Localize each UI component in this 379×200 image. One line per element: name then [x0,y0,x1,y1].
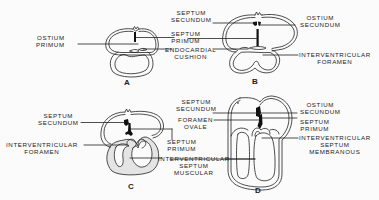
label-line: SEPTUM [158,162,230,169]
label-interventricular-foramen-c: INTERVENTRICULAR FORAMEN [6,141,78,155]
label-ostium-primum-a: OSTIUM PRIMUM [36,34,65,48]
label-endocardial-cushion-a: ENDOCARDIAL CUSHION [165,46,216,60]
heart-c [101,109,164,175]
label-line: OSTIUM [300,14,341,21]
panel-letter-d: D [255,186,261,195]
label-line: CUSHION [165,53,216,60]
panel-letter-b: B [252,77,258,86]
label-line: MUSCULAR [158,169,230,176]
label-line: SECUNDUM [176,105,217,112]
label-line: INTERVENTRICULAR [299,134,371,141]
label-septum-secundum-d: SEPTUM SECUNDUM [176,98,217,112]
label-line: OVALE [178,123,213,130]
label-line: OSTIUM [300,101,341,108]
heart-a [106,27,159,78]
label-line: MEMBRANOUS [299,148,371,155]
label-line: PRIMUM [171,37,200,44]
label-interventricular-foramen-b: INTERVENTRICULAR FORAMEN [299,51,371,65]
label-line: ENDOCARDIAL [165,46,216,53]
label-line: FORAMEN [6,148,78,155]
label-line: SECUNDUM [300,21,341,28]
label-septum-primum-d: SEPTUM PRIMUM [300,118,329,132]
label-line: INTERVENTRICULAR [6,141,78,148]
label-foramen-ovale-d: FORAMEN OVALE [178,116,213,130]
label-line: SECUNDUM [38,119,79,126]
label-line: OSTIUM [36,34,65,41]
label-line: FORAMEN [299,58,371,65]
panel-letter-a: A [124,78,130,87]
label-septum-secundum-c: SEPTUM SECUNDUM [38,112,79,126]
label-line: SEPTUM [299,141,371,148]
label-line: PRIMUM [300,125,329,132]
label-line: SEPTUM [167,138,196,145]
label-line: SECUNDUM [171,16,212,23]
label-ostium-secundum-d: OSTIUM SECUNDUM [300,101,341,115]
label-line: SEPTUM [171,9,212,16]
label-line: INTERVENTRICULAR [158,155,230,162]
label-septum-secundum-b: SEPTUM SECUNDUM [171,9,212,23]
heart-b [223,12,298,73]
label-interventricular-septum-membranous-d: INTERVENTRICULAR SEPTUM MEMBRANOUS [299,134,371,155]
label-line: SECUNDUM [300,108,341,115]
label-line: SEPTUM [38,112,79,119]
label-line: SEPTUM [171,30,200,37]
label-line: PRIMUM [36,41,65,48]
label-line: PRIMUM [167,145,196,152]
label-line: INTERVENTRICULAR [299,51,371,58]
label-interventricular-septum-muscular-c: INTERVENTRICULAR SEPTUM MUSCULAR [158,155,230,176]
label-septum-primum-a: SEPTUM PRIMUM [171,30,200,44]
label-septum-primum-c: SEPTUM PRIMUM [167,138,196,152]
panel-letter-c: C [128,182,134,191]
label-line: SEPTUM [176,98,217,105]
label-line: FORAMEN [178,116,213,123]
label-ostium-secundum-b: OSTIUM SECUNDUM [300,14,341,28]
label-line: SEPTUM [300,118,329,125]
